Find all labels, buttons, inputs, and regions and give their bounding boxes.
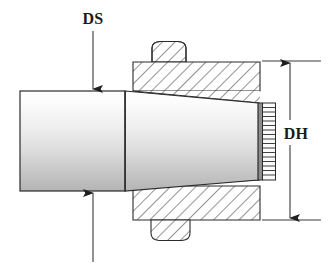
shaft	[20, 91, 258, 191]
thread-body	[263, 103, 276, 180]
thread-block	[257, 103, 276, 180]
shaft-cylinder	[20, 91, 125, 191]
drawing-canvas: DS DH	[0, 0, 334, 271]
housing-block-bottom	[133, 186, 260, 220]
technical-drawing: DS DH	[0, 0, 334, 271]
shaft-taper	[125, 91, 258, 191]
dh-label: DH	[284, 125, 309, 142]
housing-boss-top	[152, 42, 186, 63]
housing-boss-bottom	[151, 220, 190, 241]
ds-label: DS	[83, 10, 104, 27]
housing-block-top	[133, 62, 260, 91]
